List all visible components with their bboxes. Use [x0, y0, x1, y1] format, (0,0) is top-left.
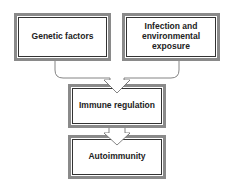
- node-genetic-factors: Genetic factors: [14, 13, 111, 61]
- node-infection-environmental-exposure: Infection and environmental exposure: [122, 13, 220, 61]
- node-autoimmunity: Autoimmunity: [68, 135, 166, 179]
- node-label: Genetic factors: [32, 32, 94, 42]
- node-label: Immune regulation: [79, 101, 155, 111]
- node-label: Infection and environmental exposure: [142, 22, 200, 51]
- node-immune-regulation: Immune regulation: [68, 84, 166, 128]
- node-label: Autoimmunity: [88, 152, 145, 162]
